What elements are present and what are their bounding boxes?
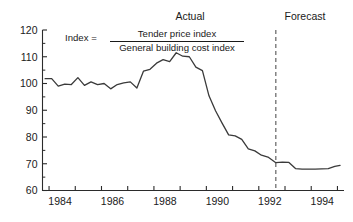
formula-denominator-label: General building cost index [119, 42, 235, 53]
actual-label: Actual [175, 10, 204, 22]
y-tick-label: 120 [20, 24, 38, 36]
y-tick-label: 90 [26, 104, 38, 116]
x-tick-label: 1988 [153, 195, 177, 207]
chart-svg: 60708090100110120 1984198619881990199219… [0, 0, 353, 222]
chart-figure: 60708090100110120 1984198619881990199219… [0, 0, 353, 222]
y-tick-label: 80 [26, 131, 38, 143]
y-tick-label: 110 [21, 51, 38, 63]
forecast-label: Forecast [285, 10, 326, 22]
formula-numerator-label: Tender price index [138, 28, 217, 39]
y-tick-label: 60 [26, 184, 38, 196]
x-tick-label: 1984 [48, 195, 72, 207]
x-tick-label: 1986 [101, 195, 125, 207]
x-tick-label: 1992 [258, 195, 282, 207]
y-tick-label: 100 [20, 77, 38, 89]
y-tick-label: 70 [26, 158, 38, 170]
x-tick-label: 1990 [206, 195, 230, 207]
formula-lhs-label: Index = [65, 32, 97, 43]
x-tick-label: 1994 [311, 195, 335, 207]
